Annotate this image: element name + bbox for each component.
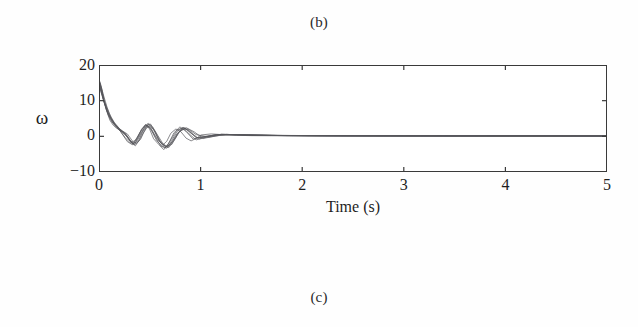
x-tick-label: 5 bbox=[592, 176, 622, 194]
data-trace bbox=[100, 82, 606, 150]
x-tick-label: 1 bbox=[186, 176, 216, 194]
x-tick-label: 3 bbox=[389, 176, 419, 194]
plot-area bbox=[99, 65, 607, 172]
figure-caption-b: (b) bbox=[0, 14, 638, 31]
data-trace bbox=[100, 85, 606, 148]
data-trace bbox=[100, 88, 606, 148]
y-tick-label: 10 bbox=[43, 92, 95, 108]
y-axis-ticks: 20 10 0 −10 bbox=[40, 65, 95, 172]
x-axis-label: Time (s) bbox=[99, 198, 607, 216]
x-axis-ticks: 0 1 2 3 4 5 bbox=[99, 176, 607, 198]
chart-figure: ω 20 10 0 −10 0 1 2 3 4 5 Time (s) bbox=[0, 52, 638, 227]
data-trace bbox=[100, 83, 606, 147]
x-tick-label: 2 bbox=[287, 176, 317, 194]
figure-caption-c: (c) bbox=[0, 289, 638, 306]
x-tick-label: 0 bbox=[84, 176, 114, 194]
data-traces bbox=[100, 66, 606, 171]
data-trace bbox=[100, 89, 606, 147]
x-tick-label: 4 bbox=[490, 176, 520, 194]
data-trace bbox=[100, 86, 606, 148]
y-tick-label: 0 bbox=[43, 127, 95, 143]
figure-page: (b) ω 20 10 0 −10 0 1 2 3 4 5 Time bbox=[0, 0, 638, 327]
y-tick-label: 20 bbox=[43, 57, 95, 73]
